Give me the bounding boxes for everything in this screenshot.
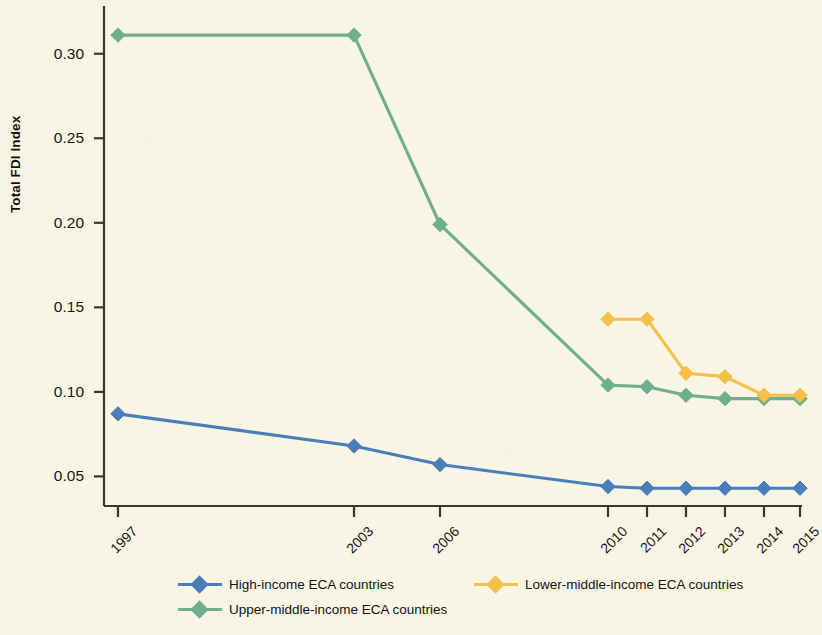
diamond-icon xyxy=(190,600,208,618)
x-tick-label: 1997 xyxy=(44,523,140,619)
legend-marker-icon xyxy=(178,601,222,617)
legend-row: Upper-middle-income ECA countries xyxy=(178,601,818,617)
diamond-icon xyxy=(486,575,504,593)
legend-item-lower-middle-income[interactable]: Lower-middle-income ECA countries xyxy=(474,576,743,592)
legend-label: High-income ECA countries xyxy=(229,577,394,592)
legend-row: High-income ECA countries Lower-middle-i… xyxy=(178,576,818,592)
legend-item-high-income[interactable]: High-income ECA countries xyxy=(178,576,474,592)
legend-marker-icon xyxy=(474,576,518,592)
legend-label: Lower-middle-income ECA countries xyxy=(525,577,743,592)
legend-marker-icon xyxy=(178,576,222,592)
legend-item-upper-middle-income[interactable]: Upper-middle-income ECA countries xyxy=(178,601,474,617)
legend-label: Upper-middle-income ECA countries xyxy=(229,602,447,617)
diamond-icon xyxy=(190,575,208,593)
chart-legend: High-income ECA countries Lower-middle-i… xyxy=(178,576,818,617)
